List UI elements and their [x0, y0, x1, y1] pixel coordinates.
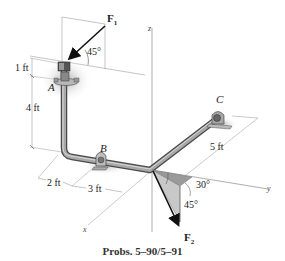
- dimension-4ft: 4 ft: [26, 103, 40, 113]
- y-axis-label: y: [267, 185, 271, 193]
- z-axis-label: z: [148, 25, 151, 33]
- f2-angle-30-label: 30°: [196, 180, 210, 190]
- point-b-label: B: [100, 143, 107, 154]
- f2-angle-45-label: 45°: [184, 200, 198, 210]
- figure-caption: Probs. 5–90/5–91: [0, 245, 285, 257]
- dimension-5ft: 5 ft: [210, 142, 224, 152]
- point-a-label: A: [48, 82, 55, 93]
- force-f1-label: F1: [107, 13, 117, 27]
- diagram-graphics: [0, 0, 285, 261]
- pipe-assembly-diagram: F1 45° z 1 ft 4 ft A C 5 ft B 2 ft 3 ft …: [0, 0, 285, 261]
- dimension-1ft: 1 ft: [15, 63, 29, 73]
- dimension-2ft: 2 ft: [47, 178, 61, 188]
- point-c-label: C: [216, 94, 223, 105]
- x-axis: [88, 170, 152, 225]
- f2-angle-region: [152, 170, 192, 222]
- x-axis-label: x: [83, 226, 87, 234]
- dimension-3ft: 3 ft: [88, 184, 102, 194]
- f1-angle-label: 45°: [87, 47, 101, 57]
